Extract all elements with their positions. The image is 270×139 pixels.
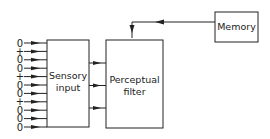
right-arrowhead-icon [93, 106, 101, 110]
perceptual-filter-node: Perceptual filter [106, 40, 163, 128]
filter-label-line2: filter [123, 86, 145, 97]
sensory-input-node: Sensory input [47, 40, 89, 127]
right-arrowhead-icon [31, 125, 40, 129]
right-arrowhead-icon [31, 108, 40, 112]
input-signal: 0 [17, 122, 47, 133]
right-arrowhead-icon [31, 41, 40, 45]
right-arrowhead-icon [31, 49, 40, 53]
right-arrowhead-icon [31, 91, 40, 95]
right-arrowhead-icon [31, 58, 40, 62]
filter-label-line1: Perceptual [109, 74, 159, 85]
memory-connector-line [132, 22, 215, 38]
input-signals: 0+00+00+000 [16, 38, 47, 133]
sensory-to-filter-arrows [89, 61, 106, 110]
right-arrowhead-icon [93, 61, 101, 65]
sensory-label-line2: input [56, 82, 81, 93]
right-arrowhead-icon [31, 83, 40, 87]
down-arrowhead-icon [130, 25, 135, 33]
memory-to-filter-edge [130, 20, 216, 39]
right-arrowhead-icon [31, 117, 40, 121]
sensory-label-line1: Sensory [49, 70, 88, 81]
right-arrowhead-icon [31, 75, 40, 79]
right-arrowhead-icon [31, 66, 40, 70]
sensory-to-filter-arrow [89, 84, 106, 88]
left-arrowhead-icon [155, 20, 164, 25]
diagram-canvas: Memory Sensory input Perceptual filter 0… [0, 0, 270, 139]
memory-label: Memory [217, 21, 256, 32]
sensory-to-filter-arrow [89, 61, 106, 65]
sensory-to-filter-arrow [89, 106, 106, 110]
memory-node: Memory [215, 12, 258, 42]
right-arrowhead-icon [31, 100, 40, 104]
input-symbol: 0 [17, 122, 23, 133]
right-arrowhead-icon [93, 84, 101, 88]
